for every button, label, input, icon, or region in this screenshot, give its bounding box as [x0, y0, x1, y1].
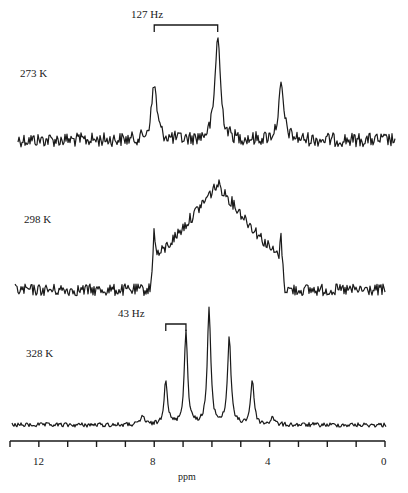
temperature-label-273K: 273 K [20, 67, 47, 79]
x-tick-label-12: 12 [33, 455, 44, 467]
temperature-label-328K: 328 K [26, 347, 53, 359]
coupling-label-127hz: 127 Hz [131, 8, 163, 20]
temperature-label-298K: 298 K [24, 213, 51, 225]
x-tick-label-4: 4 [265, 455, 271, 467]
coupling-bracket [166, 324, 186, 331]
spectrum-trace-273K [18, 38, 395, 147]
spectrum-trace-328K [12, 307, 386, 427]
x-axis-title: ppm [178, 471, 196, 482]
x-tick-label-8: 8 [150, 455, 156, 467]
coupling-bracket [154, 25, 217, 32]
nmr-spectra-plot [0, 0, 408, 493]
spectrum-trace-298K [15, 180, 385, 296]
x-tick-label-0: 0 [381, 455, 387, 467]
coupling-label-43hz: 43 Hz [118, 307, 145, 319]
